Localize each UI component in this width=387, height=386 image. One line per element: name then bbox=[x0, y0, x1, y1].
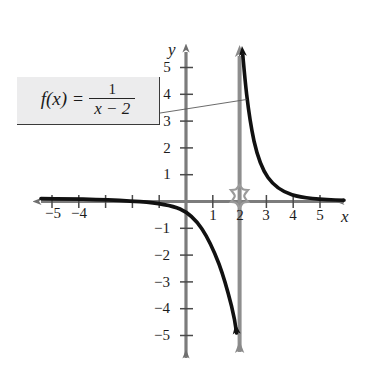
formula-fx-label: f(x) bbox=[41, 88, 67, 110]
function-graph-figure: f(x) = 1 x − 2 −5 −4 1 2 3 4 5 5 4 3 2 1… bbox=[0, 0, 387, 386]
y-tick-label-4: 4 bbox=[160, 86, 174, 103]
y-axis-label: y bbox=[168, 40, 176, 60]
function-formula-callout: f(x) = 1 x − 2 bbox=[17, 77, 160, 125]
y-axis bbox=[180, 52, 193, 358]
formula-denominator: x − 2 bbox=[90, 99, 134, 117]
x-tick-label-4: 4 bbox=[286, 207, 300, 224]
y-tick-label-1: 1 bbox=[160, 166, 174, 183]
graph-canvas bbox=[0, 0, 387, 386]
x-tick-label-neg4: −4 bbox=[70, 205, 88, 222]
y-tick-label-neg4: −4 bbox=[150, 300, 174, 317]
y-tick-label-neg2: −2 bbox=[150, 247, 174, 264]
formula-equals-sign: = bbox=[73, 89, 83, 110]
x-tick-label-5: 5 bbox=[313, 207, 327, 224]
x-tick-label-neg5: −5 bbox=[44, 205, 62, 222]
formula-fraction: 1 x − 2 bbox=[89, 82, 135, 117]
y-tick-label-neg5: −5 bbox=[150, 327, 174, 344]
x-tick-label-1: 1 bbox=[206, 207, 220, 224]
y-tick-label-neg1: −1 bbox=[150, 220, 174, 237]
y-tick-label-2: 2 bbox=[160, 140, 174, 157]
x-tick-label-3: 3 bbox=[259, 207, 273, 224]
curve-right-branch bbox=[243, 55, 344, 200]
x-tick-label-2: 2 bbox=[233, 207, 247, 224]
y-tick-label-5: 5 bbox=[160, 59, 174, 76]
y-tick-label-3: 3 bbox=[160, 113, 174, 130]
y-tick-label-neg3: −3 bbox=[150, 274, 174, 291]
x-axis-label: x bbox=[341, 207, 349, 227]
formula-numerator: 1 bbox=[104, 82, 122, 98]
